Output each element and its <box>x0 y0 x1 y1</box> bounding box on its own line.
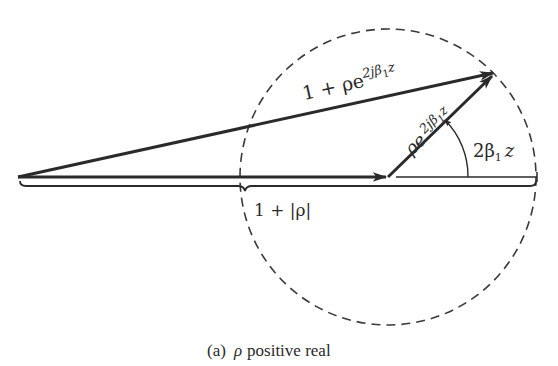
magnitude-label: 1 + |ρ| <box>254 200 311 220</box>
figure-caption: (a)ρpositive real <box>207 341 331 360</box>
magnitude-brace <box>20 181 536 191</box>
angle-arc-arrow <box>445 120 468 177</box>
reflected-vector-label: ρe2jβ1z <box>398 102 456 159</box>
svg-text:ρe2jβ1z: ρe2jβ1z <box>398 102 456 159</box>
phasor-diagram: 1 + ρe2jβ1z ρe2jβ1z 2β1z 1 + |ρ| (a)ρpos… <box>0 0 558 366</box>
angle-label: 2β1z <box>473 140 515 164</box>
